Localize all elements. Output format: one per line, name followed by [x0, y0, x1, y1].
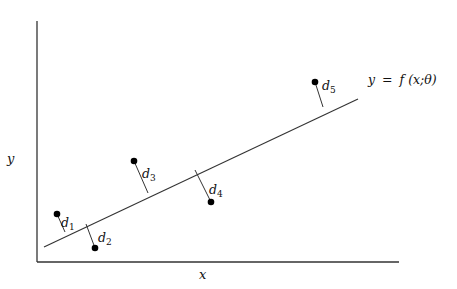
data-point-4: [208, 199, 215, 206]
label-d5: d5: [322, 78, 336, 95]
label-d2: d2: [98, 230, 112, 247]
data-point-3: [131, 158, 138, 165]
residual-d2: [86, 224, 95, 248]
y-axis-label: y: [6, 151, 15, 166]
fit-label-f: f: [399, 72, 407, 87]
label-d4: d4: [209, 182, 223, 199]
fit-label-lhs: y: [367, 72, 376, 87]
fit-line-label: y = f (x;θ): [367, 72, 437, 87]
x-axis-label: x: [199, 267, 207, 282]
fit-label-args: (x;θ): [408, 72, 437, 87]
label-d3: d3: [142, 166, 156, 183]
label-d1: d1: [61, 215, 75, 232]
data-point-1: [54, 211, 61, 218]
data-point-2: [92, 245, 99, 252]
fit-line: [44, 99, 358, 247]
data-point-5: [312, 79, 319, 86]
fit-label-eq: =: [382, 72, 392, 87]
svg-text:y = f (x;θ): y = f (x;θ): [367, 72, 437, 87]
regression-diagram: y x y = f (x;θ) d1 d2 d3 d4 d5: [0, 0, 457, 289]
